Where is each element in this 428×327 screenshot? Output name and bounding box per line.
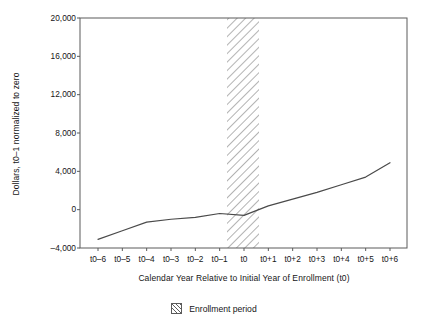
- legend-item-label: Enrollment period: [189, 304, 256, 314]
- y-tick-label: 4,000: [18, 166, 76, 176]
- y-tick-label: 20,000: [18, 13, 76, 23]
- y-tick-label: 16,000: [18, 51, 76, 61]
- y-tick-label: 12,000: [18, 89, 76, 99]
- chart-legend: Enrollment period: [0, 303, 428, 314]
- plot-area: [0, 0, 428, 327]
- enrollment-period-band: [227, 18, 259, 248]
- y-tick-label: 0: [18, 204, 76, 214]
- y-tick-label: 8,000: [18, 128, 76, 138]
- x-tick-label: t0+6: [370, 254, 410, 264]
- y-tick-label: –4,000: [18, 243, 76, 253]
- chart-figure: Dollars, t0–1 normalized to zero Calenda…: [0, 0, 428, 327]
- hatch-swatch-icon: [171, 303, 182, 314]
